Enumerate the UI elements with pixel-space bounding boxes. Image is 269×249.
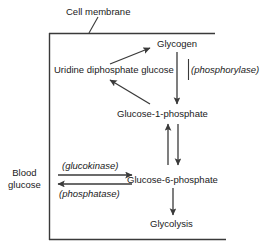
node-glucose-1-phosphate: Glucose-1-phosphate xyxy=(117,108,208,119)
enzyme-glucokinase: (glucokinase) xyxy=(62,160,119,171)
node-udp-glucose: Uridine diphosphate glucose xyxy=(54,64,174,75)
node-glycogen: Glycogen xyxy=(157,38,197,49)
node-glucose-6-phosphate: Glucose-6-phosphate xyxy=(127,174,218,185)
node-glycolysis: Glycolysis xyxy=(150,218,193,229)
diagram-canvas: Cell membrane Glycogen Uridine diphospha… xyxy=(0,0,269,249)
enzyme-phosphorylase: (phosphorylase) xyxy=(191,64,259,75)
node-blood-glucose: Blood glucose xyxy=(8,167,41,190)
node-blood-glucose-line-2: glucose xyxy=(8,179,41,191)
arrow-glucose1phosphate-to-udpglucose xyxy=(110,80,150,104)
diagram-vector-layer xyxy=(0,0,269,249)
arrow-udpglucose-to-glycogen xyxy=(110,48,150,64)
enzyme-phosphatase: (phosphatase) xyxy=(59,188,120,199)
node-blood-glucose-line-1: Blood xyxy=(8,167,41,179)
cell-membrane-label: Cell membrane xyxy=(66,6,130,17)
cell-membrane-leader-line xyxy=(89,17,98,33)
